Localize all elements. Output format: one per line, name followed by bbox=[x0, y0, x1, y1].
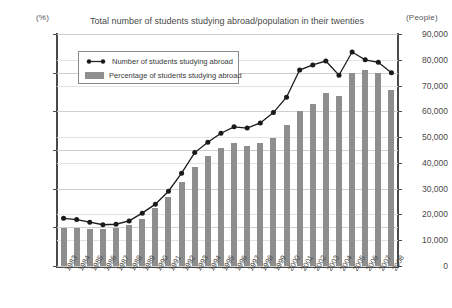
line-marker bbox=[166, 189, 171, 194]
right-axis-tick-label: 60,000 bbox=[404, 106, 448, 116]
line-marker bbox=[284, 95, 289, 100]
right-axis-tick-mark bbox=[398, 240, 402, 241]
line-marker bbox=[363, 57, 368, 62]
line-marker bbox=[127, 218, 132, 223]
left-axis-tick-mark bbox=[53, 150, 57, 151]
right-axis-tick-mark bbox=[398, 189, 402, 190]
bar-swatch-icon bbox=[85, 72, 104, 79]
right-axis-tick-mark bbox=[398, 111, 402, 112]
legend-item-bar: Percentage of students studying abroad bbox=[85, 69, 242, 82]
left-axis-tick-mark bbox=[53, 73, 57, 74]
right-axis-tick-label: 80,000 bbox=[404, 55, 448, 65]
right-axis-tick-label: 40,000 bbox=[404, 158, 448, 168]
right-axis-tick-mark bbox=[398, 163, 402, 164]
left-axis-tick-mark bbox=[53, 266, 57, 267]
line-marker bbox=[192, 150, 197, 155]
line-marker bbox=[271, 110, 276, 115]
line-marker bbox=[350, 50, 355, 55]
right-axis-tick-label: 30,000 bbox=[404, 184, 448, 194]
line-marker bbox=[140, 211, 145, 216]
right-axis-tick-mark bbox=[398, 137, 402, 138]
legend-label-line: Number of students studying abroad bbox=[112, 57, 233, 66]
line-marker bbox=[389, 70, 394, 75]
line-marker bbox=[297, 68, 302, 73]
line-marker bbox=[232, 124, 237, 129]
line-marker bbox=[179, 171, 184, 176]
right-axis-tick-label: 90,000 bbox=[404, 29, 448, 39]
line-marker bbox=[245, 126, 250, 131]
right-axis-tick-mark bbox=[398, 60, 402, 61]
left-axis-tick-mark bbox=[53, 227, 57, 228]
right-axis-tick-label: 70,000 bbox=[404, 81, 448, 91]
line-marker bbox=[114, 222, 119, 227]
line-marker bbox=[153, 202, 158, 207]
left-axis-unit-label: (%) bbox=[36, 13, 49, 22]
right-axis-tick-label: 20,000 bbox=[404, 209, 448, 219]
line-marker bbox=[205, 140, 210, 145]
line-marker-icon bbox=[85, 57, 107, 66]
line-marker bbox=[310, 62, 315, 67]
line-marker bbox=[87, 220, 92, 225]
right-axis-tick-label: 10,000 bbox=[404, 235, 448, 245]
chart-container: (%) (People) Total number of students st… bbox=[0, 0, 452, 308]
line-marker bbox=[218, 131, 223, 136]
line-marker bbox=[323, 59, 328, 64]
legend: Number of students studying abroad Perce… bbox=[78, 51, 239, 84]
chart-title: Total number of students studying abroad… bbox=[62, 16, 392, 26]
line-marker bbox=[74, 217, 79, 222]
line-marker bbox=[258, 120, 263, 125]
legend-item-line: Number of students studying abroad bbox=[85, 55, 233, 68]
left-axis-tick-mark bbox=[53, 111, 57, 112]
right-axis-tick-label: 50,000 bbox=[404, 132, 448, 142]
left-axis-tick-mark bbox=[53, 189, 57, 190]
line-marker bbox=[61, 216, 66, 221]
left-axis-tick-mark bbox=[53, 34, 57, 35]
right-axis-tick-label: 0 bbox=[404, 261, 448, 271]
line-marker bbox=[100, 222, 105, 227]
right-axis-tick-mark bbox=[398, 214, 402, 215]
legend-label-bar: Percentage of students studying abroad bbox=[109, 71, 242, 80]
right-axis-tick-mark bbox=[398, 86, 402, 87]
line-marker bbox=[376, 60, 381, 65]
line-marker bbox=[336, 73, 341, 78]
right-axis-unit-label: (People) bbox=[406, 13, 438, 22]
right-axis-tick-mark bbox=[398, 34, 402, 35]
